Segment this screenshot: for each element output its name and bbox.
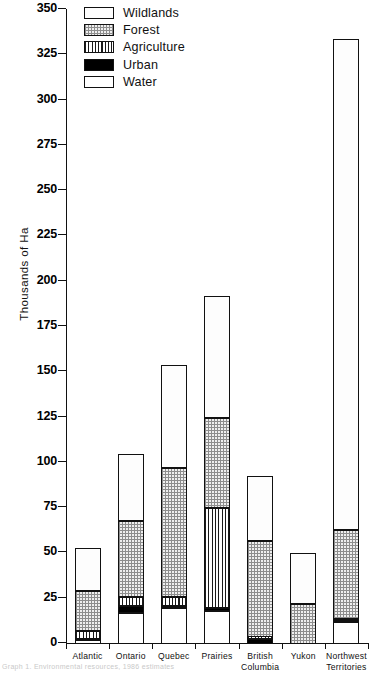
y-tick-mark — [58, 370, 66, 371]
x-tick-mark — [282, 643, 283, 649]
segment-wildlands — [75, 548, 101, 591]
x-axis-label-line: British — [239, 651, 282, 662]
y-tick-mark — [58, 8, 66, 9]
x-tick-mark — [325, 643, 326, 649]
y-tick-label: 75 — [43, 499, 57, 513]
segment-urban — [247, 639, 273, 644]
y-axis-ticks: 0255075100125150175200225250275300325350 — [0, 0, 66, 677]
bar-yukon — [290, 552, 316, 643]
segment-water — [161, 608, 187, 644]
x-tick-mark — [239, 643, 240, 649]
legend-item-forest: Forest — [84, 21, 264, 38]
legend-swatch-forest — [84, 24, 114, 36]
y-tick-label: 200 — [37, 273, 57, 287]
x-tick-mark — [368, 643, 369, 649]
segment-forest — [161, 468, 187, 597]
legend-label: Agriculture — [123, 40, 185, 54]
x-axis-label-yukon: Yukon — [282, 651, 325, 662]
x-axis-label-line: Atlantic — [66, 651, 109, 662]
x-axis-label-british-columbia: BritishColumbia — [239, 651, 282, 672]
x-axis-label-line: Ontario — [109, 651, 152, 662]
y-tick-mark — [58, 461, 66, 462]
y-tick-mark — [58, 551, 66, 552]
y-tick-label: 225 — [37, 227, 57, 241]
y-tick-mark — [58, 189, 66, 190]
segment-wildlands — [333, 39, 359, 530]
y-tick-mark — [58, 642, 66, 643]
plot-area — [66, 9, 368, 643]
segment-water — [333, 622, 359, 644]
segment-forest — [204, 418, 230, 509]
segment-water — [204, 611, 230, 644]
y-tick-mark — [58, 144, 66, 145]
y-tick-label: 250 — [37, 182, 57, 196]
x-axis-label-line: Territories — [325, 662, 368, 673]
segment-agriculture — [118, 597, 144, 606]
legend: WildlandsForestAgricultureUrbanWater — [84, 4, 264, 91]
y-tick-mark — [58, 597, 66, 598]
bar-ontario — [118, 453, 144, 643]
x-axis-label-line: Columbia — [239, 662, 282, 673]
legend-swatch-wildlands — [84, 7, 114, 19]
legend-label: Forest — [123, 23, 160, 37]
legend-item-water: Water — [84, 74, 264, 91]
segment-wildlands — [290, 553, 316, 604]
x-tick-mark — [195, 643, 196, 649]
x-tick-mark — [109, 643, 110, 649]
y-tick-label: 50 — [43, 544, 57, 558]
x-axis-label-quebec: Quebec — [152, 651, 195, 662]
segment-urban — [204, 608, 230, 612]
legend-swatch-agriculture — [84, 41, 114, 53]
segment-forest — [333, 530, 359, 619]
y-tick-label: 325 — [37, 46, 57, 60]
y-tick-mark — [58, 234, 66, 235]
segment-wildlands — [118, 454, 144, 521]
y-tick-label: 25 — [43, 590, 57, 604]
x-axis-label-northwest-territories: NorthwestTerritories — [325, 651, 368, 672]
y-tick-mark — [58, 99, 66, 100]
y-tick-label: 125 — [37, 409, 57, 423]
legend-item-agriculture: Agriculture — [84, 39, 264, 56]
y-tick-mark — [58, 506, 66, 507]
x-axis-label-ontario: Ontario — [109, 651, 152, 662]
y-tick-mark — [58, 280, 66, 281]
bar-british-columbia — [247, 475, 273, 643]
legend-swatch-water — [84, 76, 114, 88]
bar-atlantic — [75, 547, 101, 643]
segment-wildlands — [247, 476, 273, 541]
segment-wildlands — [161, 365, 187, 468]
segment-forest — [75, 591, 101, 631]
y-tick-label: 275 — [37, 137, 57, 151]
segment-wildlands — [204, 296, 230, 417]
x-axis-label-line: Yukon — [282, 651, 325, 662]
segment-agriculture — [161, 597, 187, 606]
segment-forest — [247, 541, 273, 637]
segment-forest — [118, 521, 144, 597]
legend-label: Urban — [123, 58, 158, 72]
x-tick-mark — [66, 643, 67, 649]
legend-item-urban: Urban — [84, 56, 264, 73]
y-tick-mark — [58, 416, 66, 417]
segment-water — [75, 640, 101, 644]
segment-urban — [118, 606, 144, 613]
x-axis-label-prairies: Prairies — [195, 651, 238, 662]
x-axis-label-atlantic: Atlantic — [66, 651, 109, 662]
y-tick-label: 150 — [37, 363, 57, 377]
y-tick-label: 100 — [37, 454, 57, 468]
legend-item-wildlands: Wildlands — [84, 4, 264, 21]
x-axis-label-line: Prairies — [195, 651, 238, 662]
y-tick-label: 175 — [37, 318, 57, 332]
stacked-bar-chart: Thousands of Ha 025507510012515017520022… — [0, 0, 373, 677]
segment-agriculture — [204, 508, 230, 608]
x-axis-label-line: Quebec — [152, 651, 195, 662]
x-axis-label-line: Northwest — [325, 651, 368, 662]
y-tick-mark — [58, 325, 66, 326]
y-tick-label: 300 — [37, 92, 57, 106]
legend-label: Water — [123, 75, 157, 89]
x-tick-mark — [152, 643, 153, 649]
y-tick-label: 0 — [50, 635, 57, 649]
bar-quebec — [161, 364, 187, 643]
segment-forest — [290, 604, 316, 644]
segment-water — [118, 613, 144, 644]
y-tick-mark — [58, 53, 66, 54]
